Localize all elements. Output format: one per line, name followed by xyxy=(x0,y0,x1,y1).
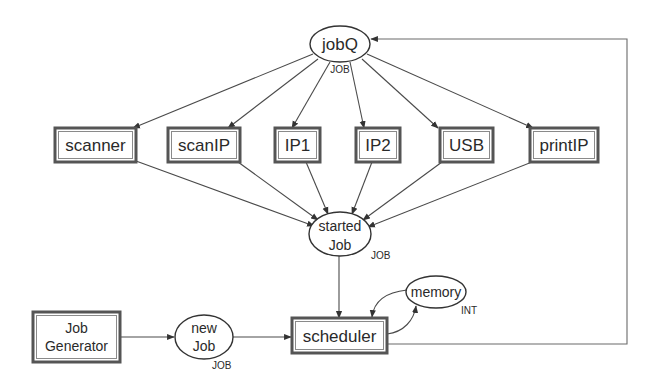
transition-job-generator-label-line1: Job xyxy=(65,320,88,336)
place-newjob-label-line1: new xyxy=(191,320,218,336)
diagram-canvas: jobQ JOB scanner scanIP IP1 IP2 USB prin… xyxy=(0,0,656,389)
place-jobq[interactable]: jobQ JOB xyxy=(310,26,370,75)
place-memory[interactable]: memory INT xyxy=(406,276,477,316)
arc-ip1-startedjob xyxy=(306,162,328,214)
arc-jobq-printip xyxy=(367,54,533,128)
place-jobq-type: JOB xyxy=(330,64,350,75)
transition-scheduler-label: scheduler xyxy=(303,327,377,346)
transition-job-generator-label-line2: Generator xyxy=(45,338,108,354)
place-startedjob[interactable]: started Job JOB xyxy=(309,212,391,261)
transition-usb-label: USB xyxy=(449,136,484,155)
transition-scheduler[interactable]: scheduler xyxy=(292,318,387,353)
arc-jobq-ip1 xyxy=(292,62,330,128)
transition-ip2-label: IP2 xyxy=(365,136,391,155)
arc-jobq-scanip xyxy=(228,59,318,128)
transition-scanip-label: scanIP xyxy=(178,136,230,155)
arc-ip2-startedjob xyxy=(352,162,372,214)
arc-jobq-scanner xyxy=(133,54,313,128)
place-newjob[interactable]: new Job JOB xyxy=(175,315,233,371)
place-newjob-type: JOB xyxy=(212,360,232,371)
arc-memory-scheduler xyxy=(372,290,407,317)
arc-printip-startedjob xyxy=(368,162,532,227)
arc-jobq-usb xyxy=(362,59,438,128)
transition-printip-label: printIP xyxy=(539,136,588,155)
transition-scanner[interactable]: scanner xyxy=(55,128,136,162)
place-memory-label: memory xyxy=(411,284,462,300)
arc-scanner-startedjob xyxy=(136,161,314,226)
place-memory-type: INT xyxy=(461,305,477,316)
transition-ip1-label: IP1 xyxy=(285,136,311,155)
transition-ip2[interactable]: IP2 xyxy=(356,128,400,162)
transition-printip[interactable]: printIP xyxy=(530,128,598,162)
arc-scanip-startedjob xyxy=(238,162,318,220)
transition-job-generator[interactable]: Job Generator xyxy=(33,312,120,362)
arc-jobq-ip2 xyxy=(350,62,364,128)
place-newjob-label-line2: Job xyxy=(193,338,216,354)
transition-usb[interactable]: USB xyxy=(440,128,493,162)
arc-scheduler-memory xyxy=(387,306,416,334)
transition-scanip[interactable]: scanIP xyxy=(168,128,240,162)
petri-net-diagram: jobQ JOB scanner scanIP IP1 IP2 USB prin… xyxy=(0,0,656,389)
place-startedjob-type: JOB xyxy=(371,250,391,261)
place-startedjob-label-line2: Job xyxy=(329,237,352,253)
place-startedjob-label-line1: started xyxy=(319,218,362,234)
transition-ip1[interactable]: IP1 xyxy=(275,128,320,162)
place-jobq-label: jobQ xyxy=(321,35,358,54)
arc-usb-startedjob xyxy=(363,162,442,220)
transition-scanner-label: scanner xyxy=(65,136,126,155)
